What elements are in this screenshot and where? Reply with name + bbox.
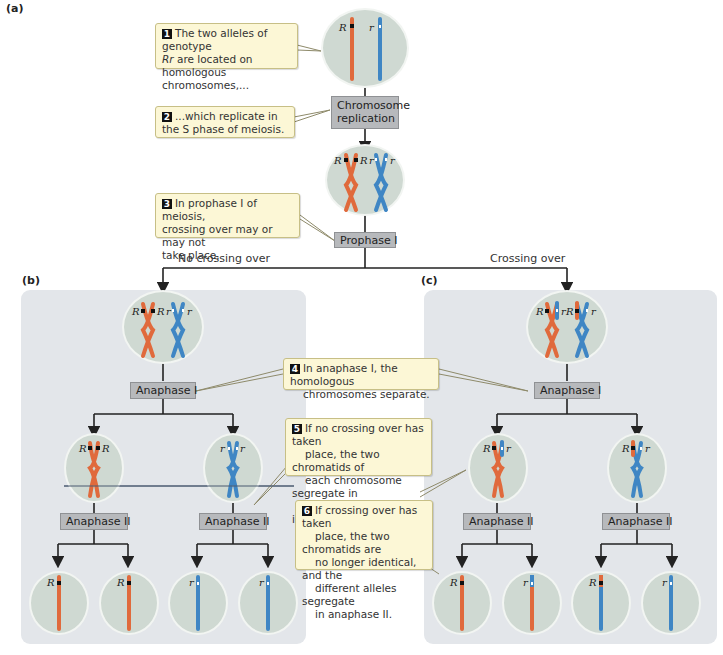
step-number-5: 5 xyxy=(292,424,302,434)
step-number-6: 6 xyxy=(302,506,312,516)
callout-6-line-2: place, the two chromatids are xyxy=(302,530,390,555)
callout-4-line-1: In anaphase I, the homologous xyxy=(290,362,398,387)
callout-5-line-2: place, the two chromatids of xyxy=(292,448,380,473)
allele-label: R xyxy=(589,577,597,588)
allele-label: r xyxy=(662,577,667,588)
allele-label: R xyxy=(450,577,458,588)
callout-5: 5If no crossing over has taken place, th… xyxy=(285,418,432,476)
callout-4: 4In anaphase I, the homologous chromosom… xyxy=(283,358,439,390)
callout-4-line-2: chromosomes separate. xyxy=(290,388,430,400)
callout-5-line-1: If no crossing over has taken xyxy=(292,422,424,447)
callout-6-line-1: If crossing over has taken xyxy=(302,504,417,529)
step-number-4: 4 xyxy=(290,364,300,374)
callout-6: 6If crossing over has taken place, the t… xyxy=(295,500,433,570)
allele-label: r xyxy=(523,577,528,588)
callout-6-line-5: in anaphase II. xyxy=(302,608,392,620)
